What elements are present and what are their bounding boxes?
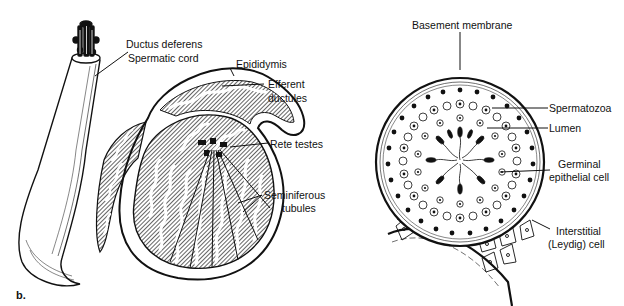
label-interstitial-cell-line1: Interstitial	[556, 225, 601, 237]
tubule-drawing	[376, 32, 550, 306]
label-germinal-epithelial-cell-line2: epithelial cell	[549, 171, 609, 183]
label-germinal-epithelial-cell-line1: Germinal	[558, 158, 601, 170]
label-interstitial-cell-line2: (Leydig) cell	[548, 238, 605, 250]
panel-label: b.	[16, 289, 26, 301]
label-lumen: Lumen	[549, 122, 581, 134]
anatomy-figure: Ductus deferens Spermatic cord Epididymi…	[0, 0, 624, 306]
label-spermatic-cord: Spermatic cord	[128, 52, 199, 64]
label-epididymis: Epididymis	[236, 58, 287, 70]
label-efferent-ductules-line1: Efferent	[268, 78, 305, 90]
label-basement-membrane: Basement membrane	[412, 19, 512, 31]
label-rete-testes: Rete testes	[270, 138, 323, 150]
spermatic-cord-drawing	[19, 21, 100, 286]
label-seminiferous-tubules-line2: tubules	[282, 202, 316, 214]
label-ductus-deferens: Ductus deferens	[126, 38, 202, 50]
label-efferent-ductules-line2: ductules	[268, 92, 307, 104]
illustration	[0, 0, 624, 306]
label-spermatozoa: Spermatozoa	[549, 102, 611, 114]
label-seminiferous-tubules-line1: Seminiferous	[264, 189, 325, 201]
